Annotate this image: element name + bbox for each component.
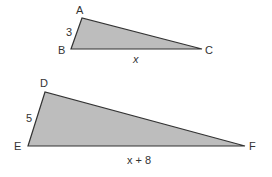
side-label-ef: x + 8 <box>127 154 151 166</box>
triangle-def <box>28 92 245 146</box>
vertex-label-a: A <box>76 4 84 16</box>
similar-triangles-diagram: A B C 3 x D E F 5 x + 8 <box>0 0 272 177</box>
side-label-bc: x <box>132 53 139 65</box>
vertex-label-c: C <box>205 44 213 56</box>
side-label-ab: 3 <box>66 26 72 38</box>
triangle-abc <box>71 18 202 49</box>
vertex-label-f: F <box>249 140 256 152</box>
vertex-label-b: B <box>58 44 65 56</box>
vertex-label-d: D <box>40 77 48 89</box>
side-label-de: 5 <box>26 112 32 124</box>
vertex-label-e: E <box>14 140 21 152</box>
